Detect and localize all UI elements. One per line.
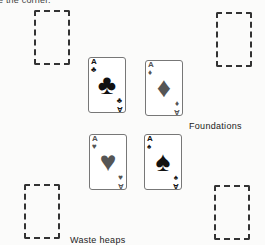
card-ace-of-clubs[interactable]: A ♣ ♣ ♣ A (88, 57, 126, 113)
spade-icon: ♠ (174, 174, 178, 182)
card-rank: A (117, 105, 123, 113)
spade-icon: ♠ (145, 148, 181, 176)
diamond-icon: ♦ (175, 100, 179, 108)
heart-icon: ♥ (90, 148, 126, 176)
club-icon: ♣ (89, 71, 125, 99)
card-rank: A (118, 182, 124, 190)
foundations-label: Foundations (189, 121, 242, 131)
caption-partial: e the corner. (0, 0, 51, 5)
card-rank: A (174, 108, 180, 116)
waste-heap-top-right[interactable] (216, 12, 252, 67)
waste-heaps-label: Waste heaps (70, 235, 126, 245)
diamond-icon: ♦ (146, 74, 182, 102)
card-ace-of-hearts[interactable]: A ♥ ♥ ♥ A (89, 134, 127, 190)
club-icon: ♣ (117, 97, 122, 105)
waste-heap-bottom-right[interactable] (214, 185, 250, 240)
card-ace-of-spades[interactable]: A ♠ ♠ ♠ A (144, 134, 182, 190)
waste-heap-top-left[interactable] (34, 10, 70, 65)
card-rank: A (173, 182, 179, 190)
heart-icon: ♥ (118, 174, 123, 182)
card-ace-of-diamonds[interactable]: A ♦ ♦ ♦ A (145, 60, 183, 116)
waste-heap-bottom-left[interactable] (24, 184, 60, 239)
